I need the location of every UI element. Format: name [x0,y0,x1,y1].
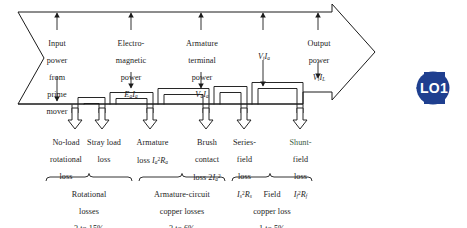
input-power-line2: power [47,56,68,65]
flow-label-electromagnetic-power: Electro- magnetic power EaIa [100,32,162,100]
series-line2: field [237,155,252,164]
shunt-line2: field [293,155,308,164]
input-power-line3: from [49,73,65,82]
arm-cu-line1: Armature-circuit [154,190,210,199]
loss-label-armature: Armature loss Ia2Ra [126,131,179,165]
loss-block-arrows [68,108,307,129]
field-cu-line1: Field [263,190,280,199]
field-cu-line3: 1 to 5% [259,224,285,228]
lo1-badge-label: LO1 [411,66,455,110]
brush-line2: contact [195,155,219,164]
no-load-line2: rotational [50,155,82,164]
rot-line2: losses [79,207,99,216]
brush-line1: Brush [197,138,217,147]
output-power-line2: power [309,56,330,65]
output-power-formula: VtIL [313,73,325,82]
flow-label-input-power: Input power from prime mover [29,32,85,116]
shunt-line1: Shunt- [289,138,311,147]
learning-objective-badge[interactable]: LO1 [411,66,455,110]
flow-label-armature-terminal-power: Armature terminal power VaIa [172,32,232,100]
block-arrow-armature-loss [143,108,157,129]
field-cu-line2: copper loss [253,207,291,216]
shunt-line3: loss [294,172,307,181]
arm-cu-line3: 3 to 6% [169,224,195,228]
rot-line1: Rotational [72,190,107,199]
arm-term-line1: Armature [186,39,218,48]
armature-loss-formula: loss Ia2Ra [137,156,168,165]
input-power-line4: prime [47,90,66,99]
em-power-formula: EaIa [124,90,137,99]
em-power-line2: magnetic [116,56,146,65]
summary-label-armature-circuit-copper-losses: Armature-circuit copper losses 3 to 6% [134,183,230,228]
input-power-line1: Input [48,39,66,48]
vt-ia-formula: VtIa [258,52,270,61]
block-arrow-shunt-field [293,108,307,129]
series-line3: loss [238,172,251,181]
series-line1: Series- [233,138,256,147]
arm-term-formula: VaIa [195,90,208,99]
no-load-line1: No-load [52,138,79,147]
armature-loss-line1: Armature [137,138,169,147]
diagram-canvas: Input power from prime mover Electro- ma… [0,0,467,228]
arm-term-line2: terminal [188,56,216,65]
summary-label-rotational-losses: Rotational losses 3 to 15% [44,183,134,228]
em-power-line1: Electro- [118,39,145,48]
arm-cu-line2: copper losses [160,207,205,216]
block-arrow-stray-load [95,108,109,129]
input-power-line5: mover [46,107,67,116]
block-arrow-series-field [237,108,251,129]
brush-formula: loss 2Ia2 [193,173,220,182]
no-load-line3: loss [60,172,73,181]
stray-load-line1: Stray load [87,138,121,147]
summary-label-field-copper-loss: Field copper loss 1 to 5% [228,183,316,228]
flow-label-terminal-volt-armature-current: VtIa [243,45,285,62]
block-arrow-brush-contact [199,108,213,129]
arm-term-line3: power [192,73,213,82]
em-power-line3: power [121,73,142,82]
flow-label-output-power: Output power VtIL [295,32,343,83]
output-power-line1: Output [307,39,330,48]
loss-label-stray-load: Stray load loss [80,131,128,165]
stray-load-line2: loss [98,155,111,164]
rot-line3: 3 to 15% [74,224,104,228]
